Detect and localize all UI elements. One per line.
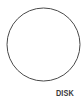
disk-figure: DISK [0, 0, 84, 102]
diagram-canvas [0, 0, 84, 102]
disk-circle-icon [7, 8, 80, 81]
disk-label: DISK [55, 88, 76, 98]
